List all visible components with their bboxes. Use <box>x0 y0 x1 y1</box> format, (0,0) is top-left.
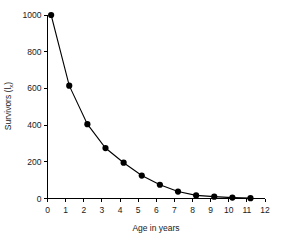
y-axis-title-close: ) <box>3 82 13 85</box>
x-tick-label: 6 <box>154 205 159 215</box>
x-tick-label: 1 <box>63 205 68 215</box>
data-point-marker <box>175 188 181 194</box>
x-tick-label: 5 <box>136 205 141 215</box>
cropped-caption-artifact <box>0 240 286 247</box>
x-axis-title: Age in years <box>132 223 179 233</box>
y-tick-label: 800 <box>27 47 41 57</box>
y-tick-label: 400 <box>27 120 41 130</box>
x-tick-label: 2 <box>81 205 86 215</box>
data-point-marker <box>102 145 108 151</box>
survivorship-curve-figure: 02004006008001000 0123456789101112 Age i… <box>0 0 286 247</box>
svg-text:Survivors (lx): Survivors (lx) <box>3 82 14 131</box>
x-tick-label: 3 <box>100 205 105 215</box>
data-point-marker <box>48 12 54 18</box>
y-tick-label: 200 <box>27 157 41 167</box>
data-point-marker <box>157 182 163 188</box>
data-point-marker <box>211 194 217 200</box>
y-axis-title-text: Survivors (l <box>3 88 13 131</box>
x-axis-tick-labels: 0123456789101112 <box>45 205 270 215</box>
data-point-marker <box>193 192 199 198</box>
data-point-marker <box>121 160 127 166</box>
data-point-marker <box>139 172 145 178</box>
x-tick-label: 9 <box>208 205 213 215</box>
survivorship-line <box>51 15 250 198</box>
y-tick-label: 600 <box>27 83 41 93</box>
data-point-marker <box>247 195 253 201</box>
y-tick-label: 0 <box>37 194 42 204</box>
data-point-marker <box>229 194 235 200</box>
x-tick-label: 12 <box>260 205 270 215</box>
x-tick-label: 8 <box>190 205 195 215</box>
data-point-marker <box>84 121 90 127</box>
x-tick-label: 4 <box>118 205 123 215</box>
x-tick-label: 10 <box>224 205 234 215</box>
data-point-marker <box>66 83 72 89</box>
x-tick-label: 7 <box>172 205 177 215</box>
y-axis-title: Survivors (lx) <box>3 82 14 131</box>
axes-group <box>48 15 266 199</box>
y-axis-tick-labels: 02004006008001000 <box>23 10 42 204</box>
chart-canvas: 02004006008001000 0123456789101112 Age i… <box>0 0 286 247</box>
x-tick-label: 11 <box>242 205 251 215</box>
x-tick-label: 0 <box>45 205 50 215</box>
y-tick-label: 1000 <box>23 10 42 20</box>
